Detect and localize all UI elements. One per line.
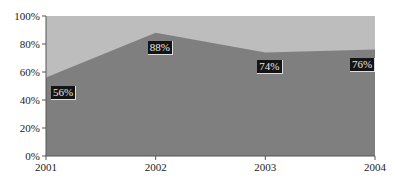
y-axis: 0%20%40%60%80%100%	[14, 10, 46, 162]
data-label: 74%	[257, 60, 282, 74]
x-tick-label: 2002	[145, 161, 167, 173]
y-tick-label: 20%	[20, 122, 40, 134]
data-label: 76%	[350, 58, 375, 72]
y-tick-label: 60%	[20, 66, 40, 78]
x-tick-label: 2004	[364, 161, 387, 173]
x-axis: 2001200220032004	[35, 156, 387, 173]
x-tick-label: 2001	[35, 161, 57, 173]
y-tick-label: 100%	[14, 10, 40, 22]
x-tick-label: 2003	[254, 161, 277, 173]
data-label: 56%	[51, 86, 76, 100]
y-tick-label: 80%	[20, 38, 40, 50]
plot-area	[46, 16, 375, 156]
data-label: 88%	[148, 41, 173, 55]
y-tick-label: 40%	[20, 94, 40, 106]
